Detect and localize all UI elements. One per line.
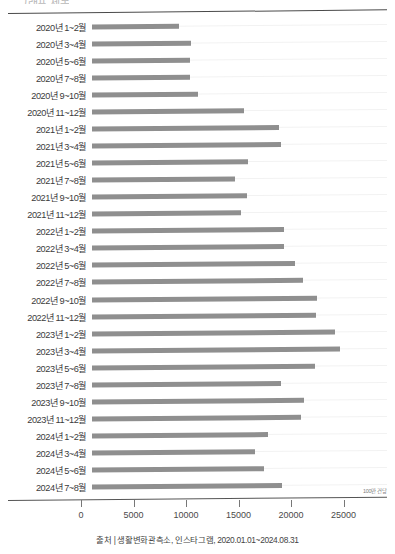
axis-tick-label: 25000 — [331, 510, 356, 520]
category-label: 2024년 3~4월 — [0, 446, 86, 460]
bar — [92, 466, 264, 472]
bar — [92, 364, 315, 371]
chart-row: 2023년 1~2월 — [0, 325, 395, 342]
bar — [92, 432, 268, 438]
chart-row: 2022년 11~12월 — [0, 308, 395, 325]
category-label: 2022년 11~12월 — [0, 310, 86, 324]
chart-row: 2020년 5~6월 — [0, 52, 395, 69]
bar — [92, 261, 295, 268]
chart-row: 2022년 1~2월 — [0, 223, 395, 240]
category-label: 2021년 3~4월 — [0, 139, 86, 153]
category-label: 2023년 3~4월 — [0, 344, 86, 358]
category-label: 2023년 5~6월 — [0, 361, 86, 375]
category-label: 2020년 7~8월 — [0, 71, 86, 85]
axis-tick — [239, 500, 240, 507]
x-axis-line — [8, 497, 387, 501]
axis-tick-label: 20000 — [278, 510, 303, 520]
category-label: 2021년 1~2월 — [0, 122, 86, 136]
chart-row: 2020년 3~4월 — [0, 35, 395, 52]
category-label: 2022년 7~8월 — [0, 275, 86, 289]
bar — [92, 244, 284, 251]
chart-row: 2020년 11~12월 — [0, 103, 395, 120]
category-label: 2024년 1~2월 — [0, 429, 86, 443]
category-label: 2023년 9~10월 — [0, 395, 86, 409]
chart-row: 2020년 1~2월 — [0, 18, 395, 35]
category-label: 2024년 7~8월 — [0, 480, 86, 494]
category-label: 2020년 1~2월 — [0, 20, 86, 34]
plot-area: 2020년 1~2월2020년 3~4월2020년 5~6월2020년 7~8월… — [0, 18, 395, 496]
bar — [92, 415, 301, 422]
bar — [92, 176, 235, 182]
category-label: 2021년 11~12월 — [0, 207, 86, 221]
bar — [92, 23, 179, 29]
bar — [92, 142, 281, 148]
category-label: 2020년 11~12월 — [0, 105, 86, 119]
bar — [92, 295, 317, 302]
bar — [92, 91, 198, 97]
axis-tick-label: 10000 — [173, 510, 198, 520]
category-label: 2023년 11~12월 — [0, 412, 86, 426]
bar — [92, 329, 335, 336]
chart-row: 2020년 7~8월 — [0, 69, 395, 86]
axis-tick-label: 0 — [78, 510, 83, 520]
chart-row: 2021년 11~12월 — [0, 206, 395, 223]
chart-row: 2021년 1~2월 — [0, 120, 395, 137]
chart-row: 2022년 3~4월 — [0, 240, 395, 257]
category-label: 2020년 5~6월 — [0, 54, 86, 68]
chart-row: 2024년 5~6월 — [0, 462, 395, 479]
bar — [92, 159, 248, 165]
bar — [92, 346, 340, 353]
chart-row: 2021년 5~6월 — [0, 155, 395, 172]
chart-row: 2020년 9~10월 — [0, 86, 395, 103]
category-label: 2022년 3~4월 — [0, 241, 86, 255]
bar — [92, 211, 241, 217]
axis-tick — [134, 500, 135, 507]
chart-row: 2021년 3~4월 — [0, 137, 395, 154]
category-label: 2023년 7~8월 — [0, 378, 86, 392]
chart-row: 2024년 7~8월 — [0, 479, 395, 496]
bar — [92, 74, 190, 80]
category-label: 2020년 3~4월 — [0, 37, 86, 51]
top-divider — [8, 9, 387, 14]
unit-label: 100만 건당 — [363, 487, 387, 495]
chart-row: 2023년 3~4월 — [0, 342, 395, 359]
bar — [92, 108, 244, 114]
bar — [92, 449, 255, 455]
bar — [92, 40, 191, 46]
page-title: 그래프 제목 — [18, 0, 69, 4]
chart-row: 2023년 7~8월 — [0, 376, 395, 393]
category-label: 2021년 9~10월 — [0, 190, 86, 204]
chart-row: 2022년 5~6월 — [0, 257, 395, 274]
category-label: 2022년 5~6월 — [0, 258, 86, 272]
axis-tick — [344, 500, 345, 507]
chart-row: 2022년 7~8월 — [0, 274, 395, 291]
axis-tick — [186, 500, 187, 507]
chart-row: 2023년 9~10월 — [0, 393, 395, 410]
chart-row: 2021년 9~10월 — [0, 189, 395, 206]
axis-tick-label: 5000 — [123, 510, 143, 520]
category-label: 2023년 1~2월 — [0, 327, 86, 341]
chart-row: 2023년 11~12월 — [0, 410, 395, 427]
horizontal-bar-chart: 그래프 제목 2020년 1~2월2020년 3~4월2020년 5~6월202… — [0, 0, 395, 554]
bar — [92, 381, 281, 387]
axis-tick — [291, 500, 292, 507]
chart-row: 2023년 5~6월 — [0, 359, 395, 376]
category-label: 2022년 9~10월 — [0, 293, 86, 307]
bar — [92, 312, 316, 319]
bar — [92, 278, 303, 285]
source-caption: 출처 | 생활변화관측소, 인스타그램, 2020.01.01~2024.08.… — [0, 533, 395, 545]
axis-tick-label: 15000 — [226, 510, 251, 520]
bar — [92, 193, 247, 199]
category-label: 2020년 9~10월 — [0, 88, 86, 102]
category-label: 2021년 5~6월 — [0, 156, 86, 170]
bar — [92, 57, 190, 63]
axis-tick — [81, 500, 82, 507]
chart-row: 2021년 7~8월 — [0, 172, 395, 189]
bar — [92, 483, 282, 489]
category-label: 2022년 1~2월 — [0, 224, 86, 238]
chart-row: 2024년 1~2월 — [0, 428, 395, 445]
chart-row: 2022년 9~10월 — [0, 291, 395, 308]
category-label: 2024년 5~6월 — [0, 463, 86, 477]
category-label: 2021년 7~8월 — [0, 173, 86, 187]
bar — [92, 398, 304, 405]
